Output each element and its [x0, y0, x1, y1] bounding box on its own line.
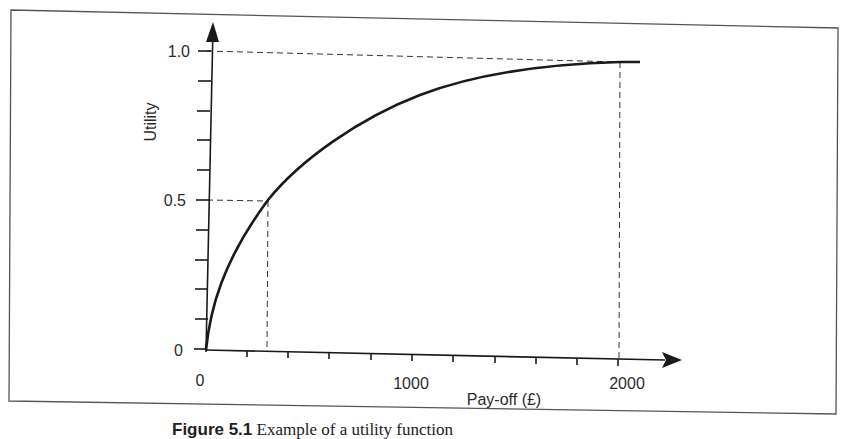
y-tick-label-0.5: 0.5 [164, 192, 186, 209]
figure-caption-label: Figure 5.1 [172, 420, 252, 439]
figure-caption: Figure 5.1 Example of a utility function [172, 421, 453, 438]
figure-caption-text: Example of a utility function [257, 420, 453, 439]
payoff-300-reference-line [267, 201, 268, 351]
utility-curve [206, 62, 640, 350]
x-tick-label-1000: 1000 [393, 375, 429, 392]
x-axis-label: Pay-off (£) [467, 391, 541, 408]
x-tick-label-2000: 2000 [609, 375, 645, 392]
payoff-2000-reference-line [619, 62, 620, 360]
y-tick-label-1.0: 1.0 [168, 43, 190, 60]
x-axis [205, 350, 682, 368]
utility-1-reference-line [207, 51, 620, 62]
y-tick-label-0: 0 [174, 342, 183, 359]
figure-frame [9, 10, 838, 414]
utility-0.5-reference-line [207, 200, 268, 201]
x-tick-label-0: 0 [196, 372, 205, 389]
y-axis-label: Utility [142, 102, 159, 141]
y-axis-arrow-icon [206, 22, 219, 42]
